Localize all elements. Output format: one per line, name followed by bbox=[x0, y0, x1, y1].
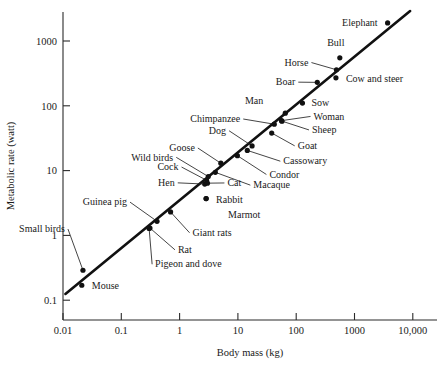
data-point bbox=[206, 174, 211, 179]
y-tick-label: 1000 bbox=[36, 36, 57, 47]
data-point bbox=[334, 67, 339, 72]
metabolic-rate-scatter-figure: MouseSmall birdsGuinea pigPigeon and dov… bbox=[0, 0, 444, 365]
data-point bbox=[204, 196, 209, 201]
leader-line bbox=[68, 229, 83, 270]
data-point-label: Goose bbox=[169, 142, 195, 153]
data-point bbox=[283, 111, 288, 116]
data-point-label: Giant rats bbox=[193, 227, 232, 238]
data-point-label: Small birds bbox=[19, 223, 65, 234]
allometric-fit-line bbox=[65, 11, 410, 294]
data-point-label: Cassowary bbox=[283, 155, 327, 166]
data-point bbox=[249, 143, 254, 148]
data-point-label: Rat bbox=[178, 244, 192, 255]
leader-line bbox=[198, 148, 221, 163]
data-point bbox=[218, 161, 223, 166]
data-point-label: Elephant bbox=[342, 17, 378, 28]
x-tick-label: 1000 bbox=[344, 325, 365, 336]
data-point bbox=[147, 225, 152, 230]
x-axis-title: Body mass (kg) bbox=[217, 347, 284, 359]
data-point bbox=[80, 268, 85, 273]
y-tick-label: 10 bbox=[47, 165, 58, 176]
data-point bbox=[154, 219, 159, 224]
leader-line bbox=[149, 228, 152, 264]
leader-line bbox=[229, 131, 252, 146]
data-point-label: Sow bbox=[311, 97, 330, 108]
chart-canvas: MouseSmall birdsGuinea pigPigeon and dov… bbox=[0, 0, 444, 365]
data-point-label: Hen bbox=[158, 177, 175, 188]
y-tick-label: 100 bbox=[41, 101, 57, 112]
leader-line bbox=[247, 150, 280, 161]
data-point bbox=[205, 181, 210, 186]
data-point-label: Macaque bbox=[253, 179, 290, 190]
data-point bbox=[213, 170, 218, 175]
data-point bbox=[385, 20, 390, 25]
data-point-label: Guinea pig bbox=[83, 196, 127, 207]
y-axis-title: Metabolic rate (watt) bbox=[5, 121, 17, 210]
x-tick-label: 100 bbox=[288, 325, 304, 336]
data-point-label: Goat bbox=[298, 140, 318, 151]
leader-line bbox=[282, 121, 309, 130]
data-point-label: Man bbox=[245, 95, 263, 106]
data-point-label: Pigeon and dove bbox=[155, 258, 222, 269]
leader-line bbox=[243, 119, 274, 124]
data-point-label: Cock bbox=[157, 161, 178, 172]
data-point bbox=[168, 209, 173, 214]
y-tick-label: 0.1 bbox=[44, 295, 57, 306]
data-point bbox=[245, 148, 250, 153]
data-point-labels: MouseSmall birdsGuinea pigPigeon and dov… bbox=[19, 17, 404, 291]
leader-line bbox=[130, 202, 157, 221]
data-point bbox=[235, 153, 240, 158]
data-point bbox=[279, 118, 284, 123]
data-point-label: Chimpanzee bbox=[190, 113, 241, 124]
data-point-label: Rabbit bbox=[216, 194, 243, 205]
data-point bbox=[333, 75, 338, 80]
data-point bbox=[272, 122, 277, 127]
leader-line bbox=[272, 133, 295, 146]
data-point-label: Horse bbox=[285, 57, 309, 68]
leader-line bbox=[171, 212, 190, 233]
data-point-label: Cow and steer bbox=[346, 73, 404, 84]
y-tick-label: 1 bbox=[52, 230, 57, 241]
x-tick-label: 0.01 bbox=[54, 325, 72, 336]
data-point bbox=[315, 80, 320, 85]
x-tick-label: 10,000 bbox=[398, 325, 427, 336]
data-point bbox=[269, 130, 274, 135]
trend-line bbox=[65, 11, 410, 294]
data-point bbox=[337, 55, 342, 60]
leader-line bbox=[176, 157, 208, 176]
axes bbox=[63, 12, 437, 320]
data-point-label: Woman bbox=[314, 111, 345, 122]
leader-line bbox=[237, 156, 266, 175]
data-point-label: Marmot bbox=[228, 209, 260, 220]
x-tick-label: 0.1 bbox=[115, 325, 128, 336]
leader-line bbox=[282, 116, 311, 120]
data-point bbox=[79, 283, 84, 288]
data-point-label: Mouse bbox=[92, 280, 120, 291]
data-point-label: Boar bbox=[276, 76, 296, 87]
leader-line bbox=[150, 228, 175, 250]
data-point-label: Dog bbox=[209, 125, 226, 136]
data-point-label: Condor bbox=[269, 169, 300, 180]
x-tick-label: 1 bbox=[177, 325, 182, 336]
leader-line bbox=[311, 63, 336, 70]
data-point-label: Sheep bbox=[312, 124, 336, 135]
data-point-label: Cat bbox=[227, 177, 241, 188]
data-point-label: Bull bbox=[327, 37, 344, 48]
data-point-label: Wild birds bbox=[131, 152, 173, 163]
data-point bbox=[300, 101, 305, 106]
x-tick-label: 10 bbox=[233, 325, 244, 336]
